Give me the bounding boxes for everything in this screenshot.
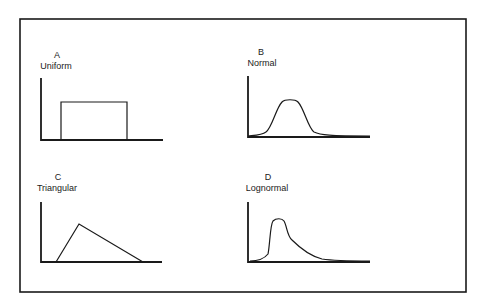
distribution-figure: A Uniform B Normal C Triangular D Lognor… (0, 0, 484, 306)
triangular-curve (56, 224, 143, 262)
panel-a-letter: A (54, 50, 60, 60)
panel-b-axes (248, 76, 370, 137)
panel-c-axes (41, 202, 162, 262)
panel-a-axes (41, 78, 163, 140)
lognormal-curve (250, 219, 370, 261)
panel-d-title: Lognormal (246, 183, 289, 193)
uniform-curve (61, 102, 127, 140)
outer-frame (20, 19, 466, 292)
panel-triangular: C Triangular (37, 172, 162, 262)
normal-curve (248, 100, 370, 136)
panel-c-letter: C (55, 172, 62, 182)
panel-b-title: Normal (247, 58, 276, 68)
panel-c-title: Triangular (37, 183, 77, 193)
panel-d-letter: D (265, 172, 272, 182)
panel-uniform: A Uniform (40, 50, 163, 140)
panel-a-title: Uniform (40, 61, 72, 71)
panel-b-letter: B (258, 47, 264, 57)
panel-lognormal: D Lognormal (246, 172, 370, 262)
panel-normal: B Normal (247, 47, 370, 137)
